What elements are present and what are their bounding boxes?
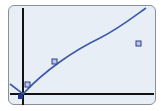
fit-curve — [10, 8, 146, 94]
data-point — [136, 41, 141, 46]
data-point — [52, 59, 57, 64]
data-point-filled — [18, 94, 23, 99]
data-point — [25, 82, 30, 87]
scatter-chart — [0, 0, 165, 111]
